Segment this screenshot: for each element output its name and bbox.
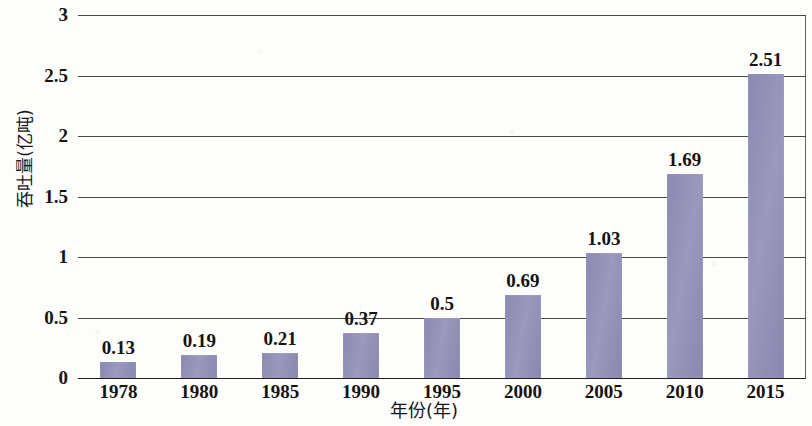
x-axis-tick-label: 1990 bbox=[321, 382, 401, 401]
bar-value-label: 0.5 bbox=[402, 294, 482, 313]
bar-value-label: 0.21 bbox=[240, 329, 320, 348]
chart-page: 00.511.522.53 吞吐量(亿吨) 0.130.190.210.370.… bbox=[0, 0, 812, 426]
y-axis-tick-label: 0.5 bbox=[20, 308, 68, 327]
gridline bbox=[78, 136, 806, 137]
gridline bbox=[78, 378, 806, 379]
bar bbox=[586, 253, 622, 378]
x-axis-tick-label: 1995 bbox=[402, 382, 482, 401]
y-axis-tick-label: 0 bbox=[20, 368, 68, 387]
bar bbox=[343, 333, 379, 378]
x-axis-tick-label: 1985 bbox=[240, 382, 320, 401]
plot-right-border bbox=[805, 15, 806, 378]
bar-value-label: 1.69 bbox=[645, 150, 725, 169]
bar bbox=[667, 174, 703, 378]
bar bbox=[748, 74, 784, 378]
x-axis-tick-label: 1980 bbox=[159, 382, 239, 401]
y-axis-title: 吞吐量(亿吨) bbox=[17, 79, 34, 239]
bar-value-label: 0.37 bbox=[321, 309, 401, 328]
bar-value-label: 2.51 bbox=[726, 50, 806, 69]
x-axis-tick-label: 2015 bbox=[726, 382, 806, 401]
plot-area bbox=[78, 15, 806, 378]
bar bbox=[100, 362, 136, 378]
x-axis-tick-label: 1978 bbox=[78, 382, 158, 401]
y-axis-tick-label: 3 bbox=[20, 5, 68, 24]
bar-value-label: 1.03 bbox=[564, 229, 644, 248]
bar-value-label: 0.13 bbox=[78, 338, 158, 357]
bar bbox=[505, 295, 541, 378]
bar bbox=[181, 355, 217, 378]
bar-value-label: 0.69 bbox=[483, 271, 563, 290]
gridline bbox=[78, 76, 806, 77]
bar-value-label: 0.19 bbox=[159, 331, 239, 350]
gridline bbox=[78, 15, 806, 16]
x-axis-tick-label: 2010 bbox=[645, 382, 725, 401]
bar bbox=[424, 318, 460, 379]
x-axis-tick-label: 2000 bbox=[483, 382, 563, 401]
x-axis-tick-label: 2005 bbox=[564, 382, 644, 401]
x-axis-title: 年份(年) bbox=[390, 402, 458, 420]
y-axis-tick-label: 1 bbox=[20, 247, 68, 266]
bar bbox=[262, 353, 298, 378]
